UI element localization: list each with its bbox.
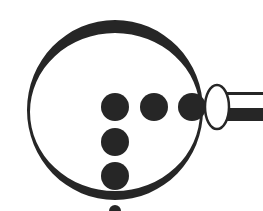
diagram-canvas xyxy=(0,0,263,211)
dot-down-2 xyxy=(101,162,129,190)
dot-bottom-small xyxy=(109,205,121,211)
dot-down-1 xyxy=(101,128,129,156)
dot-right-2 xyxy=(178,93,206,121)
connector-bar xyxy=(225,92,263,121)
bar-top-line xyxy=(225,92,263,95)
connector-ellipse xyxy=(205,85,229,129)
dot-right-1 xyxy=(140,93,168,121)
dot-center xyxy=(101,93,129,121)
bar-bottom-band xyxy=(225,108,263,121)
